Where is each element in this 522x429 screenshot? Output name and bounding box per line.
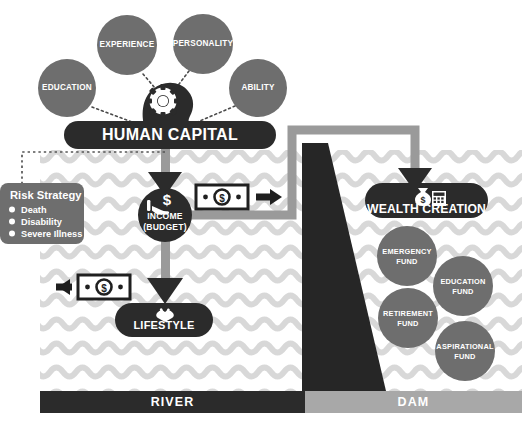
diagram-artwork: $ $ $	[0, 0, 522, 429]
circle-education	[38, 59, 96, 117]
risk-strategy-item-death: Death	[21, 205, 47, 215]
pipe-humancapital-to-income	[161, 146, 170, 174]
circle-ability	[229, 59, 287, 117]
note-to-lifestyle: $	[78, 275, 130, 299]
note-to-wealth: $	[196, 185, 248, 209]
infographic-canvas: $ $ $	[0, 0, 522, 429]
svg-text:$: $	[101, 283, 107, 294]
svg-text:$: $	[420, 195, 425, 205]
circle-personality	[173, 14, 233, 74]
risk-strategy-bullets	[9, 207, 15, 237]
svg-text:$: $	[219, 193, 225, 204]
svg-text:$: $	[163, 191, 172, 208]
circle-retirement-fund	[378, 288, 438, 348]
risk-strategy-item-disability: Disability	[21, 217, 62, 227]
risk-strategy-item-severe-illness: Severe Illness	[21, 229, 82, 239]
human-capital-pill	[64, 121, 276, 149]
circle-experience	[97, 15, 157, 75]
circle-education-fund	[433, 256, 493, 316]
circle-aspirational-fund	[435, 321, 495, 381]
river-bar	[40, 391, 305, 413]
risk-strategy-title: Risk Strategy	[10, 189, 82, 201]
dam-bar	[305, 391, 522, 413]
pipe-income-to-lifestyle	[161, 240, 170, 280]
circle-emergency-fund	[377, 226, 437, 286]
